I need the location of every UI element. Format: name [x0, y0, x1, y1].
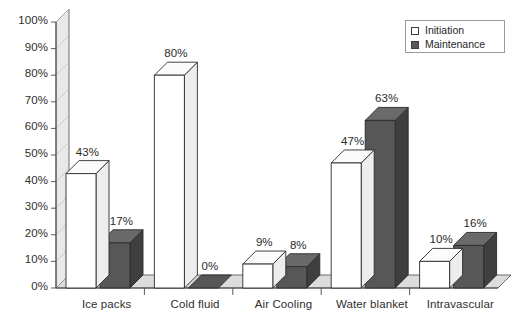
- white-square-icon: [411, 27, 419, 35]
- dark-square-icon: [411, 41, 419, 49]
- y-axis-tick-label: 30%: [4, 200, 48, 212]
- bar-label-2-maintenance: 8%: [268, 239, 328, 251]
- bar-label-0-initiation: 43%: [58, 146, 118, 158]
- bar-label-3-initiation: 47%: [323, 135, 383, 147]
- y-axis-tick-label: 50%: [4, 147, 48, 159]
- y-axis-tick-label: 100%: [4, 14, 48, 26]
- y-axis-tick-label: 0%: [4, 280, 48, 292]
- bar-label-1-initiation: 80%: [146, 47, 206, 59]
- bar-4-initiation-front: [420, 261, 450, 288]
- bar-1-initiation-front: [154, 75, 184, 288]
- bar-label-3-maintenance: 63%: [357, 92, 417, 104]
- legend-item-maintenance: Maintenance: [411, 38, 500, 51]
- bar-label-0-maintenance: 17%: [92, 215, 152, 227]
- bar-3-maintenance-side: [395, 107, 408, 288]
- chart-figure: 0%10%20%30%40%50%60%70%80%90%100% Ice pa…: [0, 0, 514, 325]
- y-axis-tick-label: 70%: [4, 94, 48, 106]
- bar-label-1-maintenance: 0%: [180, 260, 240, 272]
- x-axis-category-label: Intravascular: [405, 298, 514, 310]
- bar-3-initiation-side: [361, 150, 374, 288]
- bar-2-initiation-front: [243, 264, 273, 288]
- legend-label-maintenance: Maintenance: [425, 39, 485, 50]
- bar-0-initiation-front: [66, 174, 96, 288]
- y-axis-tick-label: 10%: [4, 253, 48, 265]
- bar-1-initiation-side: [184, 62, 197, 288]
- legend-item-initiation: Initiation: [411, 24, 500, 37]
- y-axis-tick-label: 60%: [4, 120, 48, 132]
- chart-legend: Initiation Maintenance: [405, 20, 505, 53]
- bar-label-4-initiation: 10%: [411, 233, 471, 245]
- y-axis-tick-label: 40%: [4, 174, 48, 186]
- y-axis-tick-label: 90%: [4, 41, 48, 53]
- bar-3-initiation-front: [331, 163, 361, 288]
- y-axis-tick-label: 20%: [4, 227, 48, 239]
- bar-label-4-maintenance: 16%: [445, 217, 505, 229]
- y-axis-tick-label: 80%: [4, 67, 48, 79]
- legend-label-initiation: Initiation: [425, 25, 464, 36]
